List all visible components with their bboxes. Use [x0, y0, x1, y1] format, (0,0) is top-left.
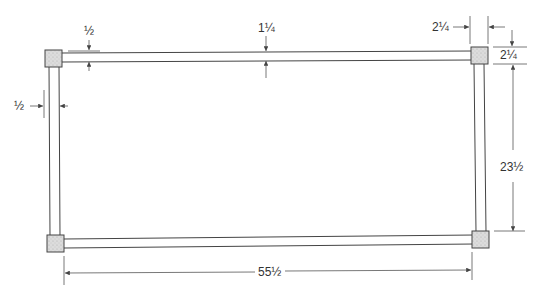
label-inner-height: 23½ — [500, 160, 523, 174]
dimension-left-stile-thickness: ½ — [14, 90, 68, 118]
corner-block-top-right — [471, 47, 488, 64]
corner-block-bottom-right — [472, 231, 489, 248]
top-rail — [62, 51, 472, 62]
left-stile — [49, 66, 60, 236]
label-overall-length: 55½ — [258, 265, 281, 279]
label-top-rail-thickness: ½ — [84, 24, 94, 38]
bottom-rail — [64, 235, 474, 248]
dimension-top-rail-thickness: ½ — [68, 24, 100, 71]
dimension-overall-length: 55½ — [64, 252, 472, 285]
label-corner-block-height: 2¼ — [500, 48, 518, 62]
corner-block-bottom-left — [47, 235, 64, 252]
dimension-corner-block-width: 2¼ — [432, 16, 505, 44]
label-left-stile-thickness: ½ — [14, 99, 24, 113]
frame-diagram: ½ 1¼ 2¼ 2¼ 23½ ½ 55½ — [0, 0, 541, 297]
label-corner-block-width: 2¼ — [432, 20, 450, 34]
dimension-inner-height: 23½ — [494, 65, 525, 231]
dimension-corner-block-height: 2¼ — [493, 30, 527, 64]
corner-block-top-left — [45, 50, 62, 67]
label-top-rail-width: 1¼ — [258, 21, 276, 35]
dimension-top-rail-width: 1¼ — [258, 21, 276, 78]
right-stile — [474, 64, 486, 232]
